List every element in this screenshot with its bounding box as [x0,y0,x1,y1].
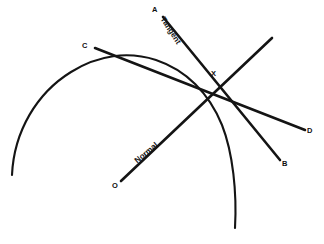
point-label-x: X [211,70,216,78]
point-label-o: O [112,182,118,190]
figure-canvas [0,0,324,244]
point-label-c: C [82,42,88,50]
point-label-d: D [307,127,313,135]
geometry-figure: A B C D O X Tangent Normal [0,0,324,244]
circular-arc [12,55,235,228]
point-label-b: B [282,160,288,168]
point-label-a: A [152,6,158,14]
